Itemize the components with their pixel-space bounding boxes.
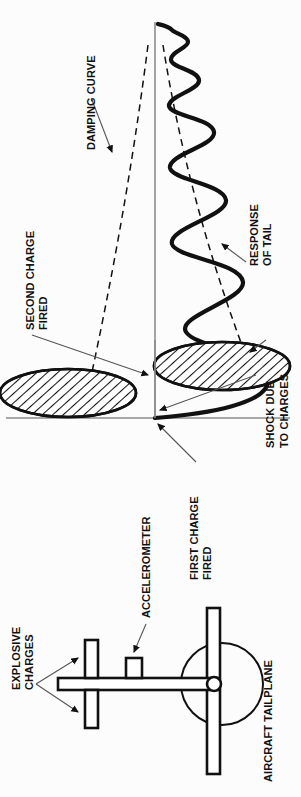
label-first-charge-line1: FIRST CHARGE (188, 496, 200, 580)
label-accelerometer: ACCELEROMETER (140, 516, 152, 618)
tailplane-schematic: EXPLOSIVE CHARGES ACCELEROMETER AIRCRAFT… (10, 516, 274, 782)
label-shock-line1: SHOCK DUE (264, 381, 276, 448)
tailplane-spar (58, 678, 218, 690)
shock-lobe-group (0, 332, 301, 430)
explosive-charge-upper (85, 640, 98, 678)
label-shock-line2: TO CHARGES (278, 374, 290, 448)
damping-envelope-lower (163, 45, 252, 372)
label-damping-curve: DAMPING CURVE (85, 55, 97, 150)
label-first-charge-line2: FIRED (201, 547, 213, 581)
trace-labels: DAMPING CURVE SECOND CHARGE FIRED RESPON… (24, 55, 290, 580)
leader-response-of-tail (222, 244, 246, 262)
figure-canvas: DAMPING CURVE SECOND CHARGE FIRED RESPON… (0, 0, 301, 797)
damping-envelope (92, 45, 252, 372)
label-second-charge-line1: SECOND CHARGE (24, 231, 36, 330)
explosive-charge-lower (85, 690, 98, 728)
leader-accelerometer (134, 624, 146, 652)
label-response-line1: RESPONSE (248, 204, 260, 266)
pivot (207, 677, 221, 691)
accelerometer-block (126, 658, 142, 678)
label-explosive-line1: EXPLOSIVE (10, 627, 22, 690)
label-aircraft-tailplane: AIRCRAFT TAILPLANE (262, 660, 274, 782)
label-second-charge-line2: FIRED (37, 297, 49, 331)
damping-envelope-upper (92, 45, 148, 372)
label-explosive-line2: CHARGES (23, 634, 35, 690)
leader-first-charge (158, 424, 196, 462)
label-response-line2: OF TAIL (261, 223, 273, 266)
tailplane-damping-diagram: DAMPING CURVE SECOND CHARGE FIRED RESPON… (0, 0, 301, 797)
